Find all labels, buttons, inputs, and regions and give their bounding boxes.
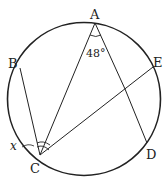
label-a: A (89, 7, 100, 22)
angle-a-value: 48° (86, 47, 106, 60)
label-e: E (153, 55, 163, 70)
angle-arc-c (37, 142, 50, 145)
circle-diagram: A B E C D 48° x (0, 0, 166, 178)
label-c: C (30, 161, 40, 176)
segment-ce (40, 67, 153, 155)
segment-ad-lower (125, 89, 147, 143)
segment-ac (40, 23, 95, 155)
angle-arc-a (90, 35, 101, 37)
circle (8, 23, 161, 176)
label-d: D (146, 147, 156, 162)
segment-bc (20, 68, 40, 155)
angle-c-x: x (10, 139, 17, 153)
label-b: B (8, 56, 18, 71)
